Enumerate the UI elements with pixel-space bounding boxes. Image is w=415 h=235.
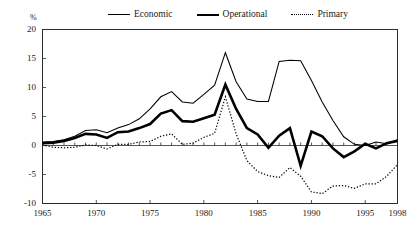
chart-figure: Economic Operational Primary % 20151050-… <box>0 0 415 235</box>
y-axis-tick-marks <box>43 30 47 204</box>
series-line-operational <box>43 85 398 166</box>
x-axis-tick-marks <box>43 143 398 204</box>
chart-plot-area <box>0 0 415 235</box>
plot-frame <box>43 30 398 204</box>
